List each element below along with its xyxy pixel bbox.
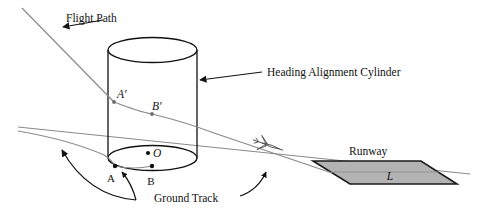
ground-track-label: Ground Track bbox=[154, 192, 218, 204]
point-o-label: O bbox=[153, 147, 162, 159]
runway-length-label: L bbox=[386, 170, 393, 182]
point-markers bbox=[112, 100, 154, 168]
point-b-label: B bbox=[147, 175, 154, 187]
marker-b-prime bbox=[150, 112, 154, 116]
flight-path-line bbox=[18, 8, 332, 173]
flight-path-label: Flight Path bbox=[66, 12, 117, 25]
marker-a-prime bbox=[112, 100, 116, 104]
runway-label: Runway bbox=[349, 145, 388, 158]
ground-track-leader-right bbox=[240, 172, 266, 196]
figure-canvas: Flight Path Heading Alignment Cylinder G… bbox=[0, 0, 477, 208]
hac-leader bbox=[200, 72, 262, 80]
point-a-prime-label: A′ bbox=[116, 88, 127, 100]
point-b-prime-label: B′ bbox=[152, 100, 162, 112]
heading-alignment-cylinder-label: Heading Alignment Cylinder bbox=[267, 66, 401, 79]
marker-a bbox=[113, 164, 117, 168]
ground-track-leader-b bbox=[122, 172, 136, 200]
marker-b bbox=[150, 164, 154, 168]
point-a-label: A bbox=[107, 172, 115, 184]
runway-shape bbox=[313, 161, 457, 184]
diagram-svg: Flight Path Heading Alignment Cylinder G… bbox=[0, 0, 477, 208]
marker-o bbox=[146, 151, 150, 155]
